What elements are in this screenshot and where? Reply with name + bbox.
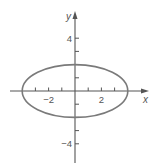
x-tick-label: 2 <box>99 94 104 105</box>
x-axis-label: x <box>142 94 149 105</box>
x-axis-arrow-icon <box>141 89 149 94</box>
x-tick-label: −2 <box>43 94 54 105</box>
y-tick-label: −4 <box>61 138 72 149</box>
y-tick-label: 4 <box>67 33 72 44</box>
y-axis-arrow-icon <box>73 11 78 19</box>
y-axis-label: y <box>65 11 72 22</box>
ellipse-graph: x y −224−4 <box>0 0 165 168</box>
plot-area: x y −224−4 <box>0 0 165 168</box>
